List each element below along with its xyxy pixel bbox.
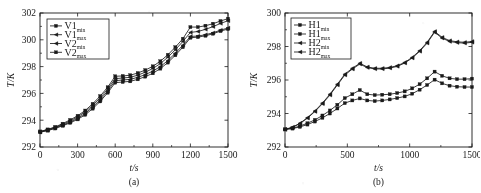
y-tick-label: 298 xyxy=(22,62,37,72)
series-marker-H1max xyxy=(441,82,444,85)
y-tick-label: 302 xyxy=(22,8,37,18)
series-marker-V2max xyxy=(46,128,49,131)
series-marker-V2max xyxy=(61,122,64,125)
series-marker-H1min xyxy=(433,70,436,73)
y-tick-label: 300 xyxy=(267,8,282,18)
series-marker-H1max xyxy=(366,99,369,102)
series-marker-H1min xyxy=(441,74,444,77)
y-tick-label: 294 xyxy=(22,116,37,126)
series-marker-V2max xyxy=(38,130,41,133)
series-marker-V2max xyxy=(121,74,124,77)
legend-marker-H1max xyxy=(298,32,301,35)
series-marker-V2max xyxy=(136,71,139,74)
series-marker-H1max xyxy=(403,95,406,98)
x-tick-label: 1200 xyxy=(181,150,200,160)
series-marker-H1min xyxy=(403,90,406,93)
series-marker-V2max xyxy=(159,60,162,63)
series-marker-H1min xyxy=(343,97,346,100)
series-marker-H1max xyxy=(455,85,458,88)
series-marker-V2max xyxy=(219,19,222,22)
series-marker-V2max xyxy=(99,95,102,98)
series-marker-H1min xyxy=(351,93,354,96)
series-marker-H1min xyxy=(426,77,429,80)
series-marker-V2min xyxy=(204,27,208,31)
series-marker-H1max xyxy=(336,107,339,110)
series-marker-H1max xyxy=(306,123,309,126)
series-marker-H1max xyxy=(426,83,429,86)
series-marker-H1max xyxy=(470,85,473,88)
x-axis-title: t/s xyxy=(130,163,139,173)
series-marker-V2max xyxy=(76,114,79,117)
series-marker-H1max xyxy=(388,98,391,101)
series-marker-H1min xyxy=(411,87,414,90)
series-marker-V2max xyxy=(114,75,117,78)
x-tick-label: 0 xyxy=(38,150,43,160)
legend-marker-V1min xyxy=(54,24,57,27)
series-marker-H1min xyxy=(373,94,376,97)
x-tick-label: 1500 xyxy=(463,150,481,160)
series-marker-V2max xyxy=(53,125,56,128)
series-marker-H1min xyxy=(336,103,339,106)
series-marker-V2max xyxy=(144,69,147,72)
y-tick-label: 294 xyxy=(267,109,282,119)
panel-caption: (b) xyxy=(373,177,384,188)
series-marker-V2max xyxy=(189,26,192,29)
series-marker-H1max xyxy=(418,88,421,91)
series-marker-H1min xyxy=(463,78,466,81)
series-marker-H1max xyxy=(411,92,414,95)
series-marker-H1min xyxy=(328,109,331,112)
series-marker-V2max xyxy=(226,17,229,20)
series-marker-V2min xyxy=(196,30,200,34)
series-marker-V2max xyxy=(166,53,169,56)
series-marker-H1min xyxy=(396,92,399,95)
x-tick-label: 500 xyxy=(340,150,355,160)
chart-panel-a: 030060090012001500292294296298300302t/sT… xyxy=(0,0,240,193)
series-marker-V2max xyxy=(151,65,154,68)
series-marker-V2max xyxy=(91,102,94,105)
x-tick-label: 300 xyxy=(70,150,85,160)
series-marker-V2max xyxy=(204,24,207,27)
legend: H1minH1maxH2minH2max xyxy=(291,18,351,59)
y-tick-label: 292 xyxy=(22,142,37,152)
series-marker-V2max xyxy=(106,86,109,89)
series-marker-H1max xyxy=(358,97,361,100)
series-marker-H1min xyxy=(366,93,369,96)
series-marker-V2max xyxy=(181,37,184,40)
series-marker-H1max xyxy=(298,125,301,128)
series-marker-H1max xyxy=(433,78,436,81)
x-tick-label: 600 xyxy=(108,150,123,160)
figure-root: 030060090012001500292294296298300302t/sT… xyxy=(0,0,481,193)
series-marker-H1max xyxy=(321,116,324,119)
y-tick-label: 296 xyxy=(267,75,282,85)
series-marker-V2max xyxy=(84,109,87,112)
x-tick-label: 1000 xyxy=(400,150,419,160)
series-marker-H1max xyxy=(381,99,384,102)
series-marker-H1max xyxy=(463,85,466,88)
series-marker-V2max xyxy=(174,46,177,49)
series-marker-H1max xyxy=(313,120,316,123)
x-tick-label: 0 xyxy=(283,150,288,160)
y-axis-title: T/K xyxy=(6,72,16,87)
series-marker-H1max xyxy=(396,97,399,100)
series-marker-H1min xyxy=(418,83,421,86)
series-line-H1max xyxy=(285,80,472,130)
series-marker-H1min xyxy=(470,77,473,80)
series-marker-H1min xyxy=(381,93,384,96)
series-marker-V2max xyxy=(69,118,72,121)
panel-caption: (a) xyxy=(129,177,140,188)
series-marker-H1min xyxy=(358,89,361,92)
series-marker-H1max xyxy=(373,100,376,103)
series-marker-V2max xyxy=(211,22,214,25)
x-axis-title: t/s xyxy=(374,163,383,173)
chart-panel-b: 050010001500292294296298300t/sT/K(b)H1mi… xyxy=(240,0,480,193)
series-marker-V2max xyxy=(129,74,132,77)
series-marker-H1max xyxy=(351,99,354,102)
series-marker-H1min xyxy=(448,77,451,80)
x-tick-label: 900 xyxy=(146,150,161,160)
series-marker-H1max xyxy=(343,102,346,105)
y-tick-label: 300 xyxy=(22,35,37,45)
x-tick-label: 1500 xyxy=(219,150,238,160)
legend-marker-V2max xyxy=(54,51,57,54)
y-tick-label: 298 xyxy=(267,42,282,52)
series-marker-H1min xyxy=(455,78,458,81)
